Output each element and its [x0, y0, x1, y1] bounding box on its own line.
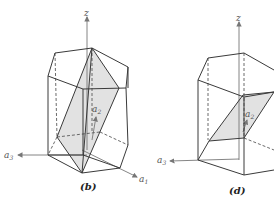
- caption-b: (b): [80, 181, 97, 192]
- a3-label-b: a3: [4, 150, 13, 161]
- figure-b: z a3 a1 a2 (b): [4, 8, 148, 192]
- shaded-plane-d: [209, 92, 274, 141]
- caption-d: (d): [229, 185, 246, 196]
- a3-label-d: a3: [157, 155, 166, 166]
- a3-axis-d: [170, 159, 239, 161]
- top-hexagon-d: [198, 53, 274, 97]
- bottom-hexagon-d: [198, 160, 274, 175]
- z-label-d: z: [235, 13, 241, 23]
- z-label-b: z: [83, 8, 89, 18]
- figure-d: z a3 a2 (d): [157, 13, 274, 196]
- a1-label-b: a1: [139, 174, 148, 185]
- crystal-diagrams: z a3 a1 a2 (b) z a3 a2 (d): [0, 0, 274, 201]
